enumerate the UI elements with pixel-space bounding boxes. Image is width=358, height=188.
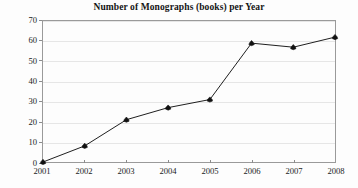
chart-figure: Number of Monographs (books) per Year 01… (0, 0, 358, 188)
x-axis-tick-mark (168, 160, 169, 163)
x-axis-tick-label: 2005 (201, 167, 218, 176)
x-axis-tick-label: 2006 (243, 167, 260, 176)
x-axis-tick-mark (210, 160, 211, 163)
x-axis-tick-mark (252, 160, 253, 163)
x-axis-tick-label: 2004 (159, 167, 176, 176)
x-axis-tick-label: 2002 (75, 167, 92, 176)
x-axis-tick-label: 2007 (285, 167, 302, 176)
x-axis-tick-label: 2008 (327, 167, 344, 176)
x-axis: 20012002200320042005200620072008 (0, 0, 358, 188)
x-axis-tick-label: 2001 (33, 167, 50, 176)
x-axis-tick-mark (294, 160, 295, 163)
x-axis-tick-mark (126, 160, 127, 163)
x-axis-tick-mark (84, 160, 85, 163)
x-axis-tick-label: 2003 (117, 167, 134, 176)
